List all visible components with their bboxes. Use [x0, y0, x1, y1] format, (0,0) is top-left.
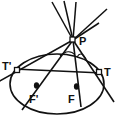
focus-f-marker: [74, 83, 79, 89]
point-t-marker: [97, 70, 102, 75]
chord-t-prime-to-t: [14, 69, 102, 73]
point-t-prime-marker: [15, 68, 20, 73]
point-p-marker: [70, 37, 75, 42]
focus-f-prime-marker: [34, 82, 39, 88]
label-point-t-prime: T': [2, 60, 12, 72]
label-focus-f-prime: F': [29, 93, 39, 105]
geometry-canvas: P T T' F F': [0, 0, 117, 124]
geometry-figure: P T T' F F': [0, 0, 117, 124]
label-point-p: P: [79, 35, 86, 47]
ray-up-mid-left: [64, 1, 73, 40]
ray-up-left: [52, 2, 73, 40]
label-point-t: T: [104, 66, 111, 78]
ray-up-mid: [73, 2, 76, 40]
label-focus-f: F: [68, 93, 75, 105]
